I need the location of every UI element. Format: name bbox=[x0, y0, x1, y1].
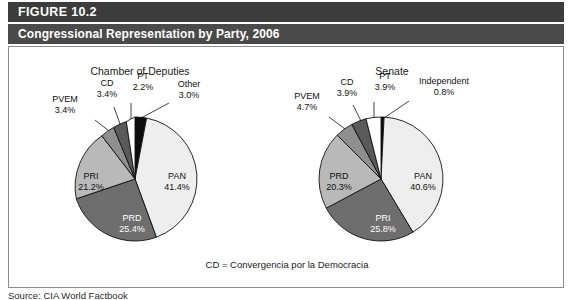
slice-inner-label-pan-pct: 40.6% bbox=[410, 182, 436, 192]
plot-frame: Chamber of Deputies PAN bbox=[8, 46, 564, 288]
leader-line-other bbox=[141, 103, 169, 118]
callout-label-cd-name: CD bbox=[101, 78, 114, 88]
leader-line-pvem bbox=[95, 120, 109, 131]
figure-number-label: FIGURE 10.2 bbox=[18, 5, 97, 19]
slice-inner-label-prd-pct: 25.4% bbox=[119, 224, 145, 234]
slice-inner-label-prd-name: PRD bbox=[329, 171, 349, 181]
slice-inner-label-pri-pct: 21.2% bbox=[78, 182, 104, 192]
callout-label-other-pct: 3.0% bbox=[179, 90, 200, 100]
callout-label-pt-pct: 3.9% bbox=[375, 82, 396, 92]
callout-label-independent-pct: 0.8% bbox=[434, 87, 455, 97]
slice-inner-label-prd-name: PRD bbox=[122, 213, 142, 223]
callout-label-independent-name: Independent bbox=[419, 76, 470, 86]
leader-line-cd bbox=[114, 107, 120, 124]
pie-chart-chamber-of-deputies: PAN 41.4% PRD 25.4% PRI 21.2% PVEM 3.4% … bbox=[17, 55, 287, 265]
slice-inner-label-pri-name: PRI bbox=[83, 171, 98, 181]
slice-inner-label-prd-pct: 20.3% bbox=[326, 182, 352, 192]
figure-footnote: CD = Convergencia por la Democracia bbox=[9, 259, 565, 270]
callout-label-cd-name: CD bbox=[341, 77, 354, 87]
callout-label-cd-pct: 3.9% bbox=[337, 88, 358, 98]
chart-panel-chamber-of-deputies: Chamber of Deputies PAN bbox=[17, 55, 287, 265]
slice-inner-label-pri-name: PRI bbox=[375, 213, 390, 223]
callout-label-pvem-name: PVEM bbox=[294, 91, 320, 101]
chart-panel-senate: Senate PAN 40.6% bbox=[283, 55, 553, 265]
figure-container: FIGURE 10.2 Congressional Representation… bbox=[8, 2, 564, 288]
pie-chart-senate: PAN 40.6% PRI 25.8% PRD 20.3% PVEM 4.7% … bbox=[283, 55, 553, 265]
leader-line-independent bbox=[384, 101, 409, 118]
slice-inner-label-pri-pct: 25.8% bbox=[370, 224, 396, 234]
slice-inner-label-pan-name: PAN bbox=[168, 171, 186, 181]
callout-label-cd-pct: 3.4% bbox=[97, 89, 118, 99]
callout-label-pt-name: PT bbox=[379, 71, 391, 81]
figure-title-label: Congressional Representation by Party, 2… bbox=[18, 27, 280, 41]
figure-source-line: Source: CIA World Factbook bbox=[8, 290, 572, 300]
callout-label-other-name: Other bbox=[178, 79, 201, 89]
figure-number-bar: FIGURE 10.2 bbox=[8, 2, 564, 22]
callout-label-pvem-pct: 4.7% bbox=[297, 102, 318, 112]
slice-inner-label-pan-pct: 41.4% bbox=[164, 182, 190, 192]
callout-label-pt-name: PT bbox=[137, 71, 149, 81]
slice-inner-label-pan-name: PAN bbox=[414, 171, 432, 181]
callout-label-pvem-name: PVEM bbox=[52, 94, 78, 104]
leader-line-cd bbox=[353, 105, 361, 121]
callout-label-pt-pct: 2.2% bbox=[133, 82, 154, 92]
callout-label-pvem-pct: 3.4% bbox=[55, 105, 76, 115]
leader-line-pvem bbox=[329, 117, 345, 129]
figure-title-bar: Congressional Representation by Party, 2… bbox=[8, 24, 564, 44]
